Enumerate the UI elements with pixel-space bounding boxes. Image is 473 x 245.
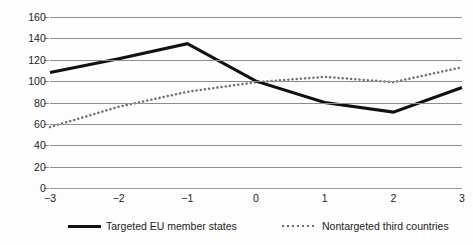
y-tick-label: 120 — [10, 55, 46, 65]
y-tick-label: 100 — [10, 76, 46, 86]
y-tick-label: 160 — [10, 12, 46, 22]
y-tick-label: 40 — [10, 140, 46, 150]
gridline — [50, 81, 462, 82]
gridline — [50, 145, 462, 146]
legend-item-targeted-eu-member-states[interactable]: Targeted EU member states — [68, 216, 237, 236]
legend-swatch-dotted-line-icon — [281, 220, 317, 232]
y-tick-label: 140 — [10, 33, 46, 43]
gridline — [50, 38, 462, 39]
gridline — [50, 60, 462, 61]
x-tick-label: 3 — [447, 193, 473, 204]
y-tick-label: 0 — [10, 183, 46, 193]
legend-label: Nontargeted third countries — [322, 220, 449, 232]
chart-legend: Targeted EU member states Nontargeted th… — [0, 216, 473, 238]
gridline — [50, 103, 462, 104]
y-tick-label: 60 — [10, 119, 46, 129]
gridline — [50, 17, 462, 18]
series-line-nontargeted-third-countries — [50, 67, 462, 127]
x-tick-label: −3 — [35, 193, 65, 204]
y-tick-label: 20 — [10, 162, 46, 172]
legend-item-nontargeted-third-countries[interactable]: Nontargeted third countries — [281, 216, 449, 236]
y-tick-label: 80 — [10, 98, 46, 108]
x-tick-label: −2 — [104, 193, 134, 204]
x-tick-label: 2 — [378, 193, 408, 204]
chart-figure: 020406080100120140160 −3−2−10123 Targete… — [0, 0, 473, 245]
legend-swatch-solid-line-icon — [68, 220, 101, 232]
gridline — [50, 188, 462, 189]
x-tick-label: 0 — [241, 193, 271, 204]
gridline — [50, 167, 462, 168]
x-tick-label: 1 — [310, 193, 340, 204]
legend-label: Targeted EU member states — [106, 220, 237, 232]
gridline — [50, 124, 462, 125]
x-tick-label: −1 — [172, 193, 202, 204]
